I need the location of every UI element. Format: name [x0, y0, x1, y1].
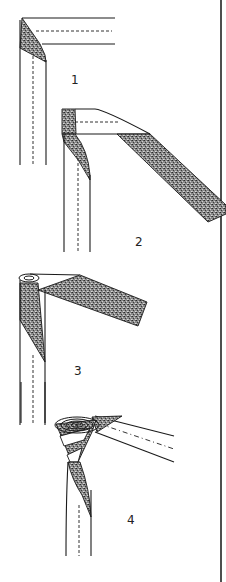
step-2-illustration [62, 109, 226, 252]
step-4-illustration [55, 416, 174, 556]
step-number-1: 1 [71, 73, 79, 87]
step-3-illustration [19, 274, 147, 425]
tape-roll-shading [20, 283, 45, 362]
diagram-canvas: 1 2 3 [0, 0, 226, 582]
tape-fold-shading [20, 18, 46, 62]
tape-spiral-shading [62, 134, 90, 180]
tape-wrap-shading [62, 109, 76, 134]
step-number-3: 3 [74, 364, 82, 378]
tape-strip-shading [38, 275, 147, 326]
tape-strip-shading [117, 134, 226, 222]
step-number-4: 4 [127, 513, 135, 527]
step-number-2: 2 [135, 235, 143, 249]
